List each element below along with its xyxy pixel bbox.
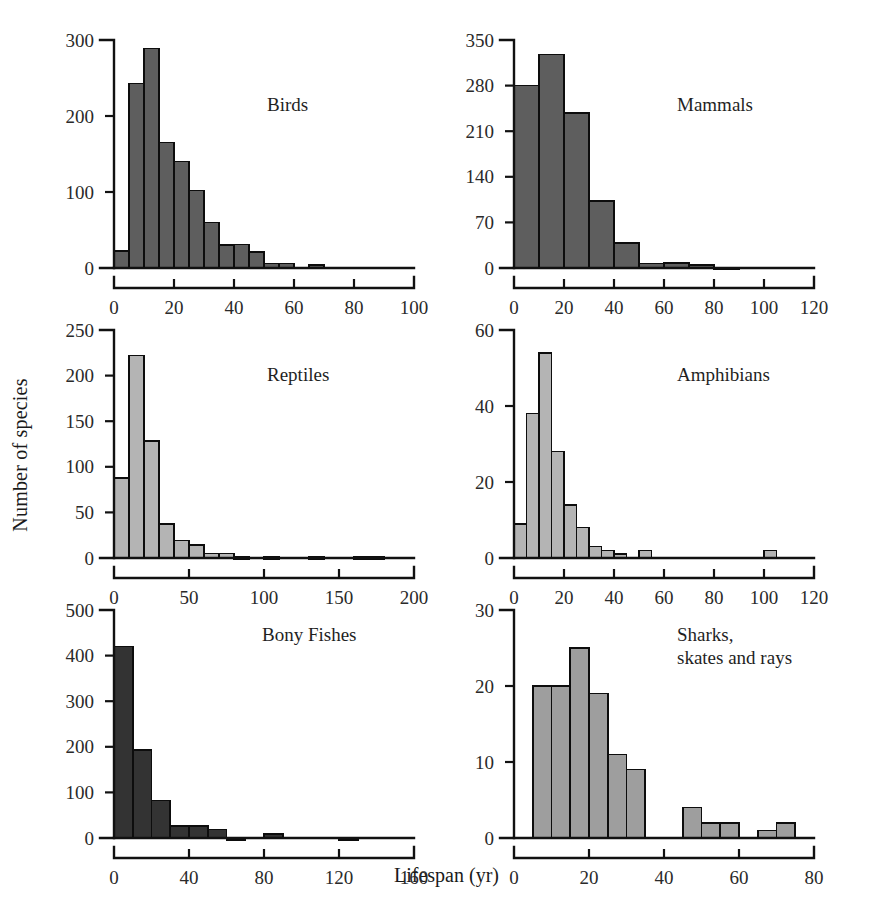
histogram-bar <box>589 547 602 558</box>
histogram-bar <box>114 251 129 268</box>
panel-reptiles: 050100150200250050100150200Reptiles <box>62 318 460 616</box>
y-axis-line <box>500 330 514 558</box>
histogram-bar <box>189 545 204 558</box>
histogram-bar <box>589 201 614 268</box>
histogram-bar <box>159 143 174 268</box>
histogram-bar <box>527 414 540 558</box>
y-tick-label: 300 <box>66 30 95 51</box>
plot-amphibians: 0204060020406080100120 <box>462 318 860 616</box>
y-tick-label: 0 <box>485 258 495 279</box>
histogram-bar <box>189 190 204 268</box>
panel-title-bony-fishes: Bony Fishes <box>262 623 357 646</box>
histogram-bar <box>539 353 552 558</box>
histogram-bar <box>114 646 133 838</box>
histogram-bar <box>129 356 144 558</box>
y-tick-label: 100 <box>66 782 95 803</box>
y-tick-label: 40 <box>475 396 494 417</box>
histogram-bar <box>564 505 577 558</box>
histogram-bar <box>204 222 219 268</box>
y-axis-line <box>100 330 114 558</box>
y-tick-label: 20 <box>475 676 494 697</box>
y-tick-label: 150 <box>66 411 95 432</box>
y-tick-label: 30 <box>475 600 494 621</box>
y-tick-label: 0 <box>485 828 495 849</box>
y-tick-label: 100 <box>66 456 95 477</box>
x-tick-label: 120 <box>325 867 354 888</box>
histogram-bar <box>219 245 234 268</box>
panel-title-amphibians: Amphibians <box>677 363 770 386</box>
x-tick-label: 120 <box>800 297 829 318</box>
x-tick-label: 40 <box>225 297 244 318</box>
histogram-bar <box>249 252 264 268</box>
histogram-bar <box>208 829 227 838</box>
y-tick-label: 200 <box>66 365 95 386</box>
plot-reptiles: 050100150200250050100150200 <box>62 318 460 616</box>
y-tick-label: 140 <box>466 166 495 187</box>
histogram-bar <box>589 694 608 838</box>
x-tick-label: 20 <box>555 297 574 318</box>
x-tick-label: 80 <box>705 297 724 318</box>
x-tick-label: 80 <box>805 867 824 888</box>
x-tick-label: 100 <box>400 297 429 318</box>
histogram-bar <box>614 243 639 268</box>
x-tick-label: 80 <box>255 867 274 888</box>
histogram-bar <box>608 754 627 838</box>
histogram-bar <box>514 86 539 268</box>
histogram-bar <box>133 750 152 838</box>
x-tick-label: 40 <box>655 867 674 888</box>
histogram-bar <box>170 826 189 838</box>
bars-sharks-skates-rays <box>533 648 796 838</box>
histogram-bar <box>577 528 590 558</box>
plot-sharks-skates-rays: 0102030020406080 <box>462 598 860 896</box>
histogram-bar <box>174 541 189 558</box>
y-tick-label: 200 <box>66 736 95 757</box>
y-tick-label: 0 <box>85 548 95 569</box>
x-tick-label: 20 <box>580 867 599 888</box>
histogram-bar <box>129 83 144 268</box>
y-tick-label: 60 <box>475 320 494 341</box>
x-tick-label: 0 <box>109 867 119 888</box>
histogram-bar <box>552 452 565 558</box>
histogram-bar <box>234 244 249 268</box>
histogram-bar <box>533 686 552 838</box>
y-tick-label: 280 <box>466 75 495 96</box>
histogram-bar <box>564 113 589 268</box>
panel-title-birds: Birds <box>267 93 308 116</box>
y-axis-title: Number of species <box>0 330 40 580</box>
plot-mammals: 070140210280350020406080100120 <box>462 28 860 326</box>
histogram-bar <box>144 48 159 268</box>
x-tick-label: 0 <box>509 297 519 318</box>
y-tick-label: 500 <box>66 600 95 621</box>
y-axis-line <box>500 610 514 838</box>
panel-title-reptiles: Reptiles <box>267 363 329 386</box>
panel-sharks-skates-rays: 0102030020406080Sharks, skates and rays <box>462 598 860 896</box>
y-axis-line <box>100 40 114 268</box>
panel-birds: 0100200300020406080100Birds <box>62 28 460 326</box>
panel-title-mammals: Mammals <box>677 93 753 116</box>
y-tick-label: 350 <box>466 30 495 51</box>
histogram-bar <box>777 823 796 838</box>
histogram-bar <box>514 524 527 558</box>
bars-birds <box>114 48 324 268</box>
histogram-bar <box>144 441 159 558</box>
histogram-bar <box>189 826 208 838</box>
histogram-bar <box>570 648 589 838</box>
histogram-bar <box>627 770 646 838</box>
x-tick-label: 0 <box>109 297 119 318</box>
y-axis-title-text: Number of species <box>9 378 32 531</box>
y-tick-label: 20 <box>475 472 494 493</box>
histogram-bar <box>539 54 564 268</box>
x-tick-label: 20 <box>165 297 184 318</box>
y-tick-label: 210 <box>466 121 495 142</box>
y-tick-label: 250 <box>66 320 95 341</box>
histogram-bar <box>683 808 702 838</box>
y-tick-label: 0 <box>85 828 95 849</box>
x-tick-label: 40 <box>605 297 624 318</box>
x-tick-label: 40 <box>180 867 199 888</box>
x-tick-label: 80 <box>345 297 364 318</box>
bars-reptiles <box>114 356 384 560</box>
histogram-bar <box>152 801 171 838</box>
x-tick-label: 60 <box>285 297 304 318</box>
bars-bony-fishes <box>114 646 358 839</box>
histogram-bar <box>702 823 721 838</box>
